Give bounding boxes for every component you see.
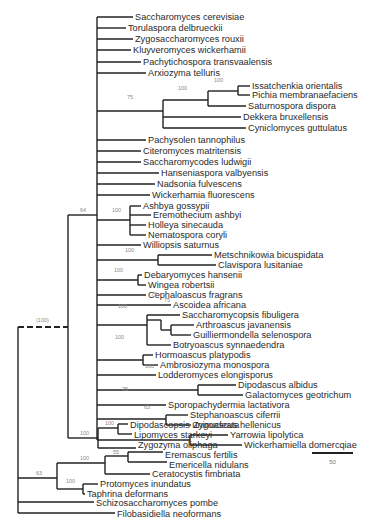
- taxon-label: Protomyces inundatus: [100, 479, 191, 489]
- bootstrap-value: 100: [125, 247, 134, 253]
- bootstrap-value: (100): [36, 317, 49, 323]
- taxon-label: Clavispora lusitaniae: [218, 260, 303, 270]
- taxon-label: Ceratocystis fimbriata: [152, 469, 241, 479]
- taxon-label: Guilliermondella selenospora: [193, 330, 312, 340]
- taxon-label: Nadsonia fulvescens: [157, 179, 242, 189]
- taxon-label: Wingea robertsii: [148, 280, 214, 290]
- taxon-label: Ascoidea africana: [173, 300, 247, 310]
- bootstrap-value: 55: [113, 449, 119, 455]
- taxon-label: Williopsis saturnus: [143, 240, 219, 250]
- taxon-label: Saccharomycopsis fibuligera: [182, 310, 300, 320]
- bootstrap-value: 100: [114, 267, 123, 273]
- taxon-label: Dipodascus albidus: [238, 380, 318, 390]
- bootstrap-value: 100: [105, 420, 114, 426]
- taxon-label: Lodderomyces elongisporus: [158, 370, 273, 380]
- taxon-label: Yarrowia lipolytica: [230, 430, 304, 440]
- bootstrap-value: 100: [118, 303, 127, 309]
- taxon-label: Botryoascus synnaedendra: [173, 340, 285, 350]
- taxon-label: Lipomyces starkeyi: [134, 430, 212, 440]
- bootstrap-value: 75: [164, 297, 170, 303]
- taxon-label: Arthroascus javanensis: [196, 320, 291, 330]
- taxon-label: Kluyveromyces wickerhamii: [133, 45, 246, 55]
- taxon-label: Hanseniaspora valbyensis: [161, 168, 269, 178]
- taxon-label: Wickerhamia fluorescens: [152, 190, 255, 200]
- taxon-label: Saccharomyces cerevisiae: [135, 12, 244, 22]
- taxon-label: Sporopachydermia lactativora: [168, 400, 290, 410]
- taxon-label: Debaryomyces hansenii: [144, 270, 242, 280]
- taxon-label: Citeromyces matritensis: [143, 146, 241, 156]
- bootstrap-value: 100: [80, 455, 89, 461]
- bootstrap-value: 100: [80, 430, 89, 436]
- taxon-label: Metschnikowia bicuspidata: [214, 250, 324, 260]
- taxon-label: Stephanoascus ciferrii: [190, 410, 280, 420]
- taxon-label: Wickerhamiella domercqiae: [244, 440, 357, 450]
- taxon-label: Ambrosiozyma monospora: [160, 360, 270, 370]
- taxon-label: Schizosaccharomyces pombe: [96, 498, 218, 508]
- phylogenetic-tree: Saccharomyces cerevisiaeTorulaspora delb…: [0, 0, 375, 526]
- taxon-label: Dipodascopsis uninucleata: [130, 420, 240, 430]
- bootstrap-value: 100: [145, 363, 154, 369]
- taxon-label: Galactomyces geotrichum: [245, 390, 352, 400]
- scale-bar: 50: [312, 453, 353, 465]
- bootstrap-value: 100: [112, 207, 121, 213]
- taxon-label: Saturnospora dispora: [248, 101, 337, 111]
- taxon-label: Cyniclomyces guttulatus: [248, 123, 347, 133]
- taxon-label: Dekkera bruxellensis: [243, 112, 329, 122]
- bootstrap-value: 100: [115, 334, 124, 340]
- taxon-label: Zygozyma oliphaga: [138, 440, 219, 450]
- bootstrap-value: 100: [66, 478, 75, 484]
- bootstrap-value: 75: [151, 291, 157, 297]
- bootstrap-value: 100: [178, 85, 187, 91]
- taxon-label: Eremothecium ashbyi: [153, 210, 241, 220]
- bootstrap-value: 63: [144, 404, 150, 410]
- taxon-label: Hormoascus platypodis: [155, 350, 251, 360]
- taxon-label: Zygosaccharomyces rouxii: [135, 34, 244, 44]
- bootstrap-value: 63: [36, 470, 42, 476]
- taxon-label: Pachysolen tannophilus: [148, 135, 245, 145]
- taxon-label: Saccharomycodes ludwigii: [143, 157, 251, 167]
- scale-bar-label: 50: [329, 459, 336, 465]
- bootstrap-value: 100: [214, 77, 223, 83]
- taxon-label: Filobasidiella neoformans: [117, 509, 222, 519]
- taxon-labels: Saccharomyces cerevisiaeTorulaspora delb…: [87, 12, 358, 519]
- bootstrap-value: 64: [80, 207, 86, 213]
- bootstrap-value: 75: [127, 94, 133, 100]
- taxon-label: Holleya sinecauda: [148, 220, 224, 230]
- taxon-label: Arxiozyma telluris: [148, 68, 220, 78]
- taxon-label: Nematospora coryli: [148, 230, 227, 240]
- taxon-label: Cephaloascus fragrans: [148, 290, 243, 300]
- taxon-label: Pachytichospora transvaalensis: [143, 57, 273, 67]
- taxon-label: Pichia membranaefaciens: [252, 90, 358, 100]
- taxon-label: Eremascus fertilis: [165, 450, 238, 460]
- bootstrap-value: 75: [122, 386, 128, 392]
- taxon-label: Torulaspora delbrueckii: [128, 23, 222, 33]
